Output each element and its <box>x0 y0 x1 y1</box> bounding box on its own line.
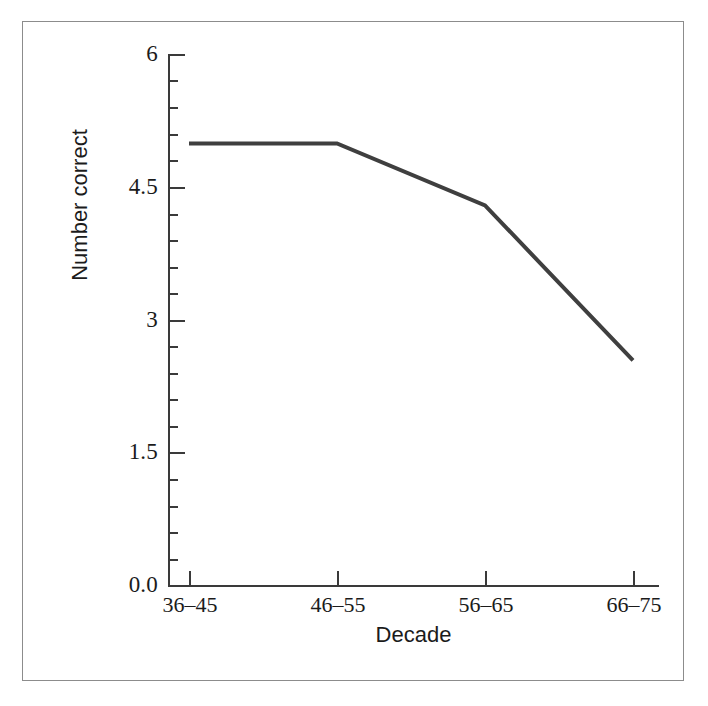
x-axis-tick-label: 46–55 <box>268 592 408 618</box>
x-axis-tick-label: 56–65 <box>416 592 556 618</box>
plot-area <box>168 55 658 586</box>
y-axis-tick-label: 4.5 <box>106 174 158 200</box>
y-axis-tick-label: 6 <box>106 41 158 67</box>
x-axis-tick-label: 66–75 <box>564 592 704 618</box>
chart-figure: 6 4.5 3 1.5 0.0 36–45 46–55 56–65 66–75 … <box>0 0 708 706</box>
x-axis-title: Decade <box>168 622 659 648</box>
data-series-line <box>189 144 633 361</box>
y-axis-title: Number correct <box>67 85 93 325</box>
y-axis-tick-label: 1.5 <box>106 439 158 465</box>
y-axis-tick-label: 3 <box>106 307 158 333</box>
x-axis-tick-label: 36–45 <box>120 592 260 618</box>
data-line-svg <box>168 55 658 586</box>
